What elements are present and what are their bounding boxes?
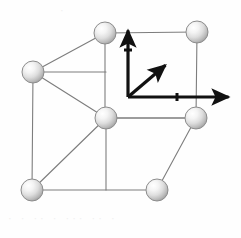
coordinate-axes-group xyxy=(128,30,229,97)
atom-front-bottom-left xyxy=(21,179,43,201)
atom-back-bottom-right xyxy=(185,107,207,129)
lattice-figure: · · ·· · ··· ·· · · xyxy=(0,0,241,238)
atom-center-front-top xyxy=(95,107,117,129)
atom-front-bottom-right xyxy=(146,179,168,201)
edge-diag-center xyxy=(32,118,106,190)
atom-back-top-right xyxy=(186,21,208,43)
edge-front-top xyxy=(33,72,106,118)
edge-diag-bottom-right xyxy=(157,118,196,190)
edge-front-left-vertical xyxy=(32,72,33,190)
atom-back-top-left xyxy=(94,22,116,44)
edge-diag-top-left xyxy=(33,33,105,72)
edge-back-right-vertical xyxy=(196,32,197,118)
lattice-diagram-canvas xyxy=(0,0,241,238)
atom-front-top-left xyxy=(22,61,44,83)
axis-diagonal-body-vector xyxy=(128,65,165,97)
edge-back-top xyxy=(105,32,197,33)
